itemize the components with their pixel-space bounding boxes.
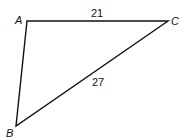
triangle-abc [16, 21, 168, 126]
side-label-ac: 21 [91, 7, 103, 19]
triangle-diagram: A C B 21 27 [0, 0, 193, 140]
side-label-bc: 27 [92, 76, 104, 88]
vertex-label-c: C [171, 15, 179, 27]
vertex-label-b: B [6, 127, 13, 139]
vertex-label-a: A [14, 14, 22, 26]
